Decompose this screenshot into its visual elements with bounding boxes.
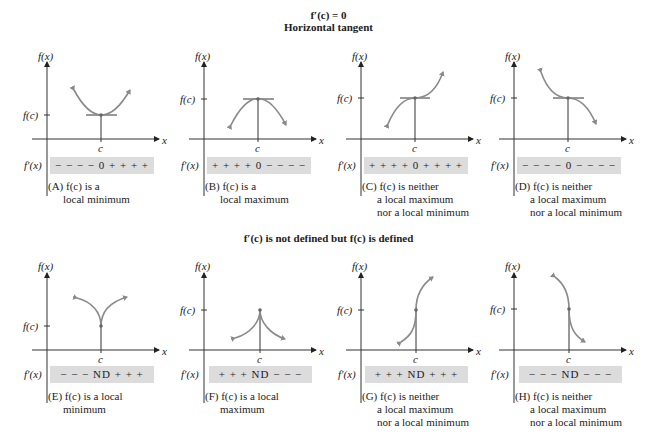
caption-f: (F) f(c) is a local maximum: [205, 390, 279, 416]
caption-e: (E) f(c) is a local minimum: [48, 390, 123, 416]
x-axis-label: x: [476, 134, 481, 146]
caption-line: f(c) is a: [222, 180, 256, 192]
x-axis-label: x: [162, 345, 167, 357]
fc-label: f(c): [23, 320, 38, 332]
caption-prefix: (C): [362, 180, 377, 192]
caption-b: (B) f(c) is a local maximum: [205, 180, 289, 206]
fprime-label: f′(x): [491, 159, 509, 171]
caption-line: local minimum: [48, 193, 130, 206]
y-axis-label: f(x): [195, 50, 210, 62]
c-label: c: [98, 142, 103, 154]
c-label: c: [566, 353, 571, 365]
fc-label: f(c): [23, 109, 38, 121]
fprime-label: f′(x): [181, 159, 199, 171]
x-axis-label: x: [319, 134, 324, 146]
fc-label: f(c): [490, 303, 505, 315]
caption-line: f(c) is a local: [221, 390, 279, 402]
caption-line: f(c) is a local: [65, 390, 123, 402]
caption-a: (A) f(c) is a local minimum: [48, 180, 130, 206]
x-axis-label: x: [319, 345, 324, 357]
fprime-label: f′(x): [24, 159, 42, 171]
fprime-label: f′(x): [181, 368, 199, 380]
caption-line: a local maximum: [515, 193, 622, 206]
fc-label: f(c): [180, 304, 195, 316]
x-axis-label: x: [476, 345, 481, 357]
fc-label: f(c): [337, 304, 352, 316]
caption-line: a local maximum: [515, 403, 622, 416]
caption-prefix: (A): [48, 180, 63, 192]
y-axis-label: f(x): [352, 50, 367, 62]
caption-line: f(c) is neither: [379, 180, 438, 192]
caption-line: nor a local minimum: [515, 416, 622, 429]
x-axis-label: x: [162, 134, 167, 146]
caption-c: (C) f(c) is neither a local maximum nor …: [362, 180, 469, 219]
caption-line: nor a local minimum: [362, 206, 469, 219]
graph-panel-g: [346, 273, 473, 403]
y-axis-label: f(x): [505, 50, 520, 62]
sign-chart-h: − − − ND − − −: [519, 366, 622, 383]
caption-prefix: (H): [515, 390, 530, 402]
caption-line: a local maximum: [362, 403, 469, 416]
caption-prefix: (F): [205, 390, 218, 402]
caption-line: a local maximum: [362, 193, 469, 206]
caption-line: local maximum: [205, 193, 289, 206]
fprime-label: f′(x): [338, 159, 356, 171]
graph-panel-d: [499, 62, 626, 196]
caption-line: f(c) is neither: [380, 390, 439, 402]
graph-panel-b: [189, 62, 316, 196]
caption-prefix: (E): [48, 390, 62, 402]
sign-chart-g: + + + ND + + +: [365, 366, 468, 383]
c-label: c: [412, 142, 417, 154]
y-axis-label: f(x): [352, 260, 367, 272]
caption-g: (G) f(c) is neither a local maximum nor …: [362, 390, 469, 429]
sign-chart-a: − − − − 0 + + + +: [50, 157, 154, 174]
fc-label: f(c): [490, 92, 505, 104]
y-axis-label: f(x): [195, 260, 210, 272]
caption-h: (H) f(c) is neither a local maximum nor …: [515, 390, 622, 429]
sign-chart-d: − − − − 0 − − − −: [517, 157, 621, 174]
sign-chart-e: − − − ND + + +: [50, 366, 154, 383]
c-label: c: [98, 353, 103, 365]
fprime-label: f′(x): [338, 368, 356, 380]
sign-chart-f: + + + ND − − −: [209, 366, 312, 383]
x-axis-label: x: [629, 345, 634, 357]
sign-chart-b: + + + + 0 − − − −: [207, 157, 311, 174]
fprime-label: f′(x): [491, 368, 509, 380]
caption-prefix: (B): [205, 180, 220, 192]
caption-line: f(c) is neither: [533, 390, 592, 402]
caption-prefix: (G): [362, 390, 377, 402]
c-label: c: [413, 353, 418, 365]
caption-line: maximum: [205, 403, 279, 416]
graph-panel-c: [346, 62, 473, 196]
fprime-label: f′(x): [24, 368, 42, 380]
y-axis-label: f(x): [38, 50, 53, 62]
caption-line: f(c) is neither: [533, 180, 592, 192]
caption-line: minimum: [48, 403, 123, 416]
caption-line: nor a local minimum: [362, 416, 469, 429]
c-label: c: [257, 353, 262, 365]
caption-d: (D) f(c) is neither a local maximum nor …: [515, 180, 622, 219]
graph-panel-f: [189, 273, 316, 403]
x-axis-label: x: [629, 134, 634, 146]
caption-line: nor a local minimum: [515, 206, 622, 219]
c-label: c: [565, 142, 570, 154]
fc-label: f(c): [337, 92, 352, 104]
graph-panel-a: [32, 62, 159, 196]
graph-panel-h: [499, 273, 626, 403]
y-axis-label: f(x): [505, 260, 520, 272]
caption-line: f(c) is a: [66, 180, 100, 192]
c-guide-lines: [101, 157, 569, 383]
c-label: c: [255, 142, 260, 154]
graph-panel-e: [32, 273, 159, 403]
y-axis-label: f(x): [38, 260, 53, 272]
caption-prefix: (D): [515, 180, 530, 192]
sign-chart-c: + + + + 0 + + + +: [364, 157, 468, 174]
fc-label: f(c): [180, 93, 195, 105]
